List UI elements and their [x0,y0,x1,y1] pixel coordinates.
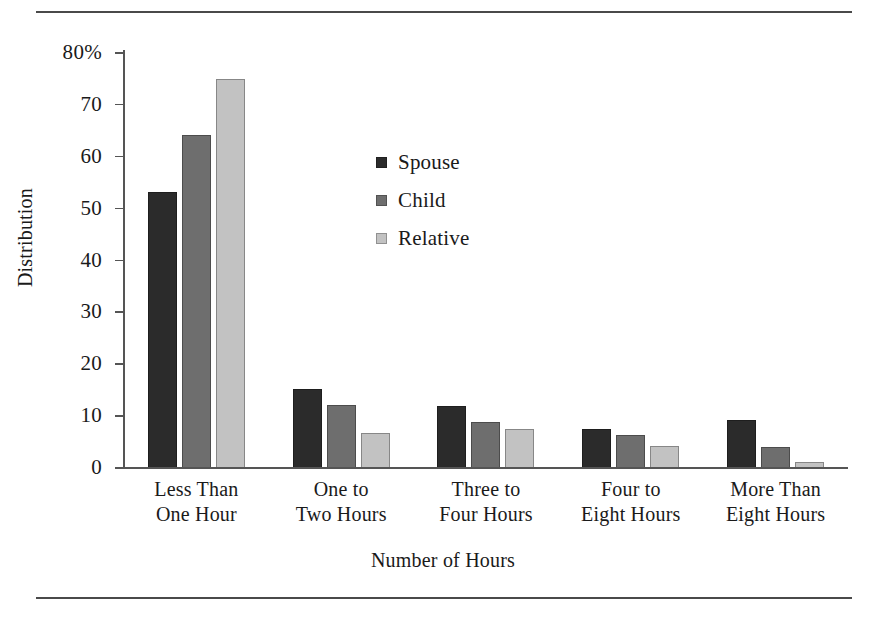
y-axis-tick-label: 30 [80,301,102,322]
legend-label: Relative [398,228,470,249]
y-axis-tick-label: 60 [80,145,102,166]
bar-group [558,52,703,467]
y-axis-tick: 60 [115,156,124,158]
x-axis-category-label: One to Two Hours [269,477,414,527]
legend-item-relative: Relative [376,219,470,257]
x-axis-category-label: Three to Four Hours [414,477,559,527]
y-axis-tick-label: 0 [91,457,102,478]
bar-spouse [437,406,466,467]
x-axis-category-label: Four to Eight Hours [558,477,703,527]
legend-label: Spouse [398,152,460,173]
bar-relative [795,462,824,467]
y-axis-tick: 0 [115,467,124,469]
y-axis-tick-label: 20 [80,353,102,374]
x-axis-line [123,467,848,469]
legend-swatch-icon [376,157,387,168]
bar-child [471,422,500,467]
y-axis-tick-label: 50 [80,197,102,218]
bar-child [761,447,790,467]
figure: Distribution 01020304050607080% SpouseCh… [0,0,886,621]
legend-item-child: Child [376,181,470,219]
bar-relative [361,433,390,467]
y-axis-tick-label: 80% [63,42,102,63]
legend-swatch-icon [376,195,387,206]
y-axis-tick-label: 40 [80,249,102,270]
y-axis-tick: 30 [115,311,124,313]
x-axis-category-label: More Than Eight Hours [703,477,848,527]
bar-spouse [582,429,611,467]
bar-group [124,52,269,467]
y-axis-tick: 70 [115,104,124,106]
y-axis-title-text: Distribution [14,188,37,287]
plot-area: 01020304050607080% [124,52,848,467]
x-axis-category-label: Less Than One Hour [124,477,269,527]
x-axis-title: Number of Hours [0,549,886,572]
y-axis-tick-label: 70 [80,93,102,114]
y-axis-title: Distribution [14,89,37,188]
legend-label: Child [398,190,446,211]
bar-group [269,52,414,467]
chart-legend: SpouseChildRelative [376,143,470,257]
bar-relative [505,429,534,467]
bar-spouse [148,192,177,467]
legend-swatch-icon [376,233,387,244]
bottom-rule [36,597,852,599]
y-axis-tick: 80% [115,52,124,54]
bar-group [414,52,559,467]
y-axis-tick: 50 [115,208,124,210]
bar-relative [650,446,679,467]
top-rule [36,11,852,13]
bar-relative [216,79,245,467]
y-axis-tick: 40 [115,260,124,262]
y-axis-tick: 20 [115,363,124,365]
legend-item-spouse: Spouse [376,143,470,181]
bar-group [703,52,848,467]
y-axis-tick: 10 [115,415,124,417]
bar-spouse [727,420,756,467]
bar-spouse [293,389,322,467]
y-axis-tick-label: 10 [80,405,102,426]
bar-child [616,435,645,467]
bar-child [182,135,211,467]
bar-child [327,405,356,467]
